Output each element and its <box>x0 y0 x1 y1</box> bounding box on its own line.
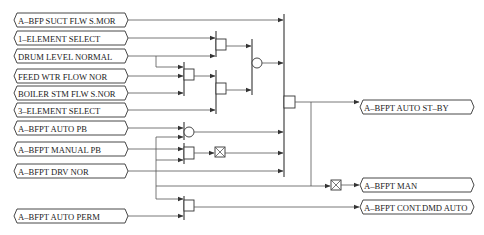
and-gate-6 <box>184 196 194 220</box>
input-label: BOILER STM FLW S.NOR <box>18 89 116 99</box>
and-gate-4 <box>184 143 194 164</box>
output-box-bfpt-man: A–BFPT MAN <box>360 178 474 192</box>
wires <box>128 20 359 216</box>
input-box-3-element-select: 3–ELEMENT SELECT <box>14 103 128 117</box>
input-label: A–BFPT DRV NOR <box>18 167 89 177</box>
input-label: FEED WTR FLOW NOR <box>18 72 107 82</box>
input-box-bfpt-manual-pb: A–BFPT MANUAL PB <box>14 142 128 156</box>
input-box-drum-level-normal: DRUM LEVEL NORMAL <box>14 49 128 63</box>
or-gate-2 <box>184 122 194 140</box>
logic-diagram: A–BFP SUCT FLW S.MOR 1–ELEMENT SELECT DR… <box>0 0 484 235</box>
input-box-feed-wtr-flow: FEED WTR FLOW NOR <box>14 69 128 83</box>
memory-block-2 <box>331 180 341 190</box>
input-label: A–BFPT AUTO PERM <box>18 212 100 222</box>
and-gate-main <box>284 14 295 177</box>
input-label: A–BFPT AUTO PB <box>18 124 87 134</box>
and-gate-3 <box>216 70 226 114</box>
output-label: A–BFPT MAN <box>364 181 418 191</box>
memory-block-1 <box>215 147 225 157</box>
and-gate-2 <box>216 31 226 57</box>
input-box-1-element-select: 1–ELEMENT SELECT <box>14 31 128 45</box>
input-label: A–BFP SUCT FLW S.MOR <box>18 16 116 26</box>
input-box-bfp-suct-flw: A–BFP SUCT FLW S.MOR <box>14 13 128 27</box>
input-label: 1–ELEMENT SELECT <box>18 34 101 44</box>
or-gate-1 <box>252 39 262 95</box>
input-box-boiler-stm-flw: BOILER STM FLW S.NOR <box>14 86 128 100</box>
input-label: A–BFPT MANUAL PB <box>18 145 101 155</box>
input-box-bfpt-auto-pb: A–BFPT AUTO PB <box>14 121 128 135</box>
output-box-bfpt-auto-stby: A–BFPT AUTO ST–BY <box>360 100 474 114</box>
output-label: A–BFPT AUTO ST–BY <box>364 103 449 113</box>
input-box-bfpt-auto-perm: A–BFPT AUTO PERM <box>14 209 128 223</box>
input-label: DRUM LEVEL NORMAL <box>18 52 112 62</box>
and-gate-1 <box>184 62 194 96</box>
input-box-bfpt-drv-nor: A–BFPT DRV NOR <box>14 164 128 178</box>
input-label: 3–ELEMENT SELECT <box>18 106 101 116</box>
output-box-bfpt-cont-dmd-auto: A–BFPT CONT.DMD AUTO <box>360 200 474 214</box>
output-label: A–BFPT CONT.DMD AUTO <box>364 203 467 213</box>
